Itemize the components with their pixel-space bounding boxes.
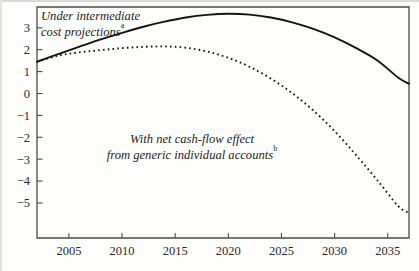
annotation-line: from generic individual accounts xyxy=(107,148,273,162)
annotation-intermediate: Under intermediatecost projectionsa xyxy=(41,9,140,39)
chart-annotations: Under intermediatecost projectionsaWith … xyxy=(41,9,277,162)
x-tick-label: 2025 xyxy=(269,244,294,258)
chart-series xyxy=(37,14,409,213)
y-axis-ticks: 3210−1−2−3−4−5 xyxy=(17,21,43,210)
y-tick-label: 1 xyxy=(24,65,30,79)
annotation-superscript: a xyxy=(121,20,125,29)
annotation-line: Under intermediate xyxy=(41,9,140,23)
annotation-individual-accounts: With net cash-flow effectfrom generic in… xyxy=(107,132,277,162)
y-tick-label: −5 xyxy=(17,196,30,210)
line-chart: 3210−1−2−3−4−5 2005201020152020202520302… xyxy=(0,0,419,271)
y-tick-label: −1 xyxy=(17,109,30,123)
x-tick-label: 2035 xyxy=(375,244,400,258)
y-tick-label: −3 xyxy=(17,153,30,167)
annotation-superscript: b xyxy=(273,143,277,152)
x-tick-label: 2010 xyxy=(110,244,135,258)
y-tick-label: 3 xyxy=(24,21,30,35)
x-axis-ticks: 2005201020152020202520302035 xyxy=(56,233,400,258)
series-line-individual-accounts xyxy=(37,46,409,212)
y-tick-label: −4 xyxy=(17,174,31,188)
x-tick-label: 2030 xyxy=(322,244,347,258)
y-tick-label: 2 xyxy=(24,43,30,57)
x-tick-label: 2020 xyxy=(216,244,241,258)
y-tick-label: 0 xyxy=(24,87,30,101)
figure-container: 3210−1−2−3−4−5 2005201020152020202520302… xyxy=(0,0,419,271)
x-tick-label: 2015 xyxy=(163,244,188,258)
y-tick-label: −2 xyxy=(17,131,30,145)
annotation-line: cost projections xyxy=(41,25,121,39)
annotation-line: With net cash-flow effect xyxy=(130,132,255,146)
x-tick-label: 2005 xyxy=(56,244,81,258)
